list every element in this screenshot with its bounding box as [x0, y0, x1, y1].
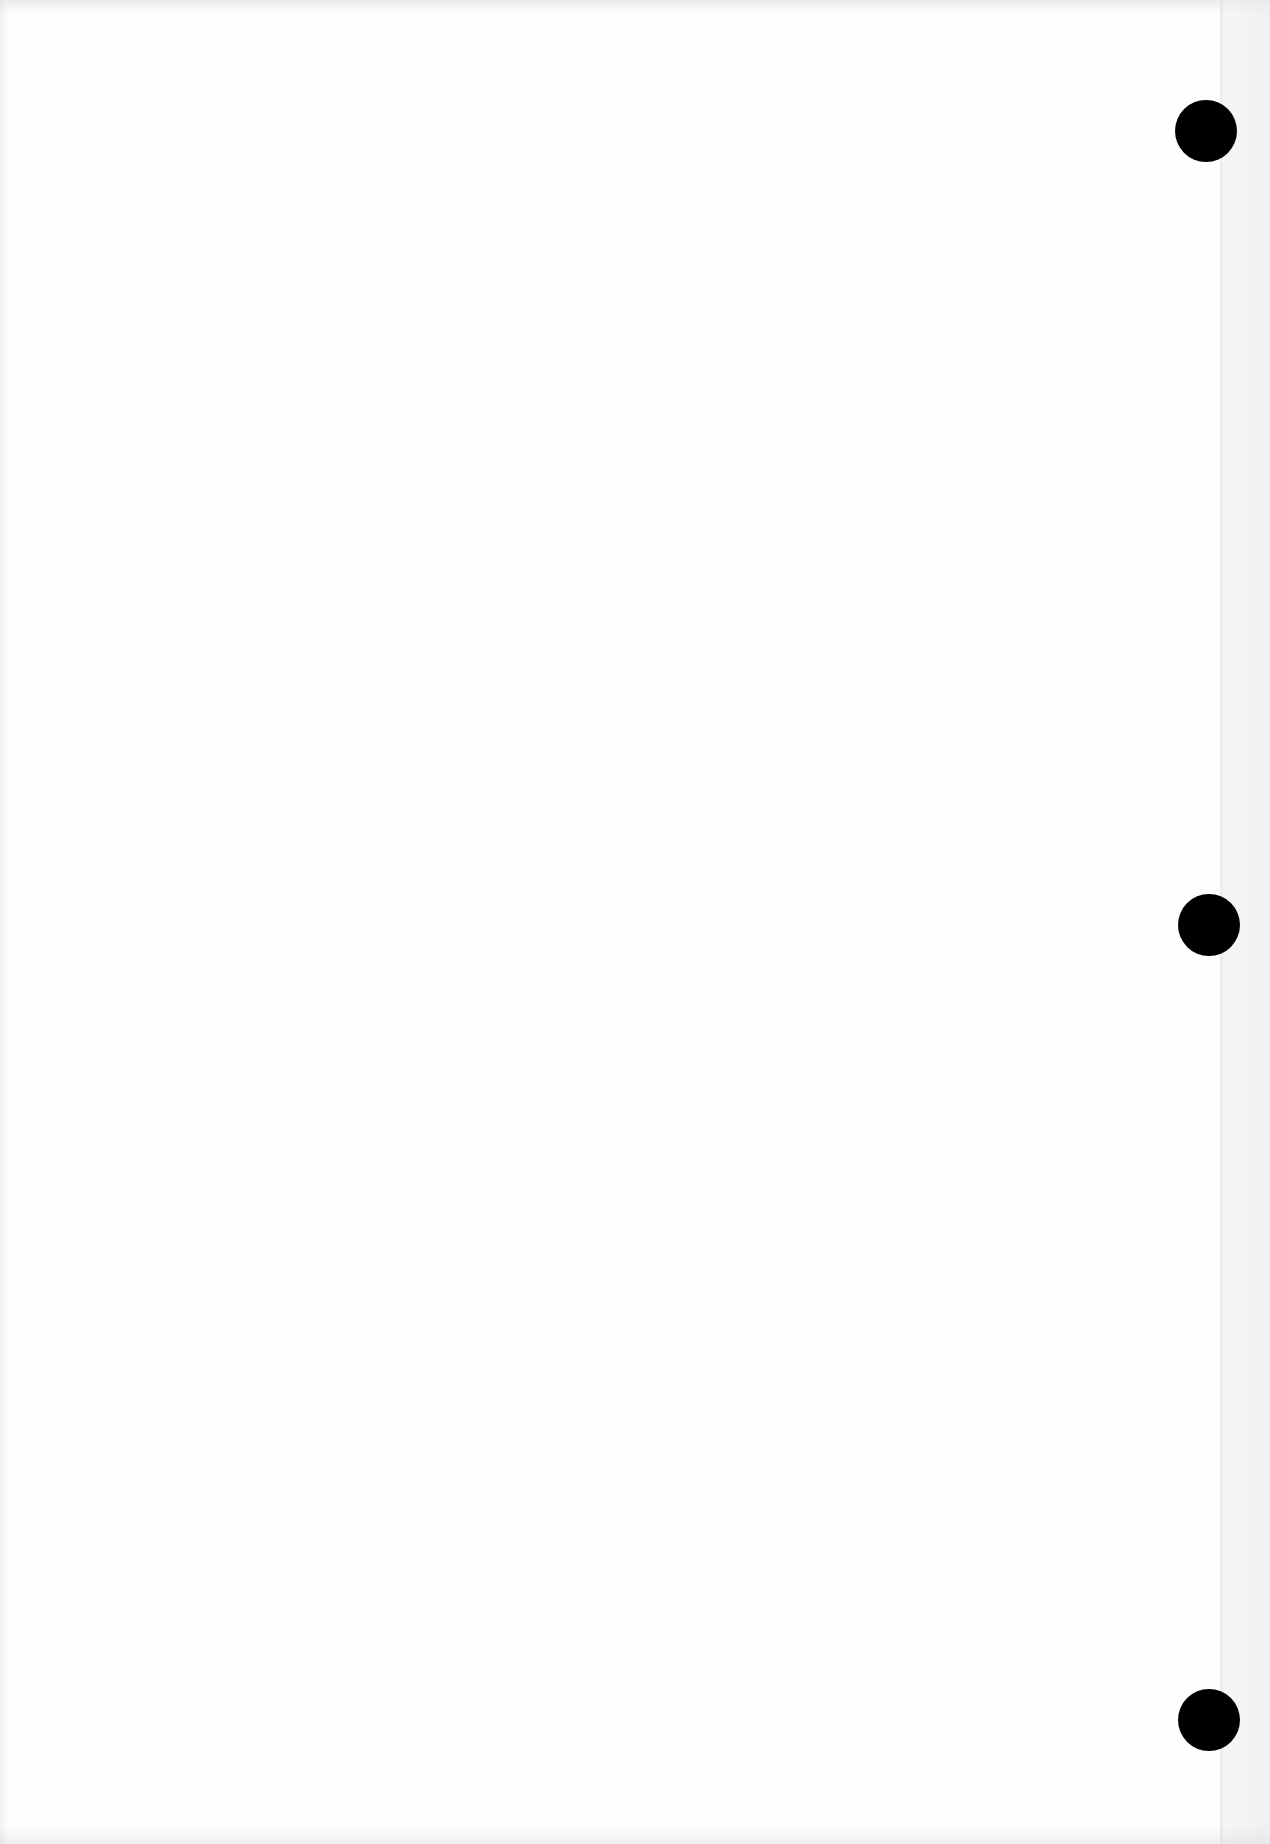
punch-hole-middle [1178, 894, 1240, 956]
bottom-edge-bleed-through [0, 1826, 1270, 1844]
punch-hole-top [1175, 100, 1237, 162]
punch-hole-bottom [1178, 1689, 1240, 1751]
top-edge-bleed-through [0, 0, 1270, 14]
left-edge-shadow [0, 0, 8, 1844]
scanned-page [0, 0, 1270, 1844]
